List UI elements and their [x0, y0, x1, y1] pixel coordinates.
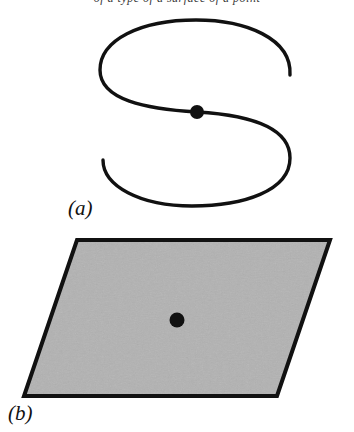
s-curve-drawing: [0, 8, 354, 208]
cropped-caption-remnant: of a type of a surface of a point: [0, 0, 354, 5]
panel-a-s-curve: [0, 8, 354, 208]
s-curve-marked-point: [190, 105, 204, 119]
parallelogram-marked-point: [170, 313, 185, 328]
parallelogram-drawing: [0, 228, 354, 408]
panel-b-parallelogram: [0, 228, 354, 408]
panel-label-b: (b): [8, 403, 33, 424]
panel-label-a: (a): [68, 198, 93, 219]
figure-page: of a type of a surface of a point (a): [0, 0, 354, 432]
